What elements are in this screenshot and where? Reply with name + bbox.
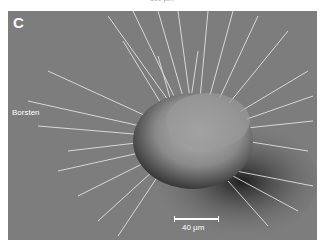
previous-panel-scale-label: 100 µm	[150, 0, 174, 2]
bristles-annotation: Borsten	[12, 108, 40, 117]
panel-label: C	[13, 14, 24, 31]
sem-image-panel: C Borsten 40 µm	[8, 11, 317, 240]
sem-micrograph	[8, 11, 317, 240]
scale-bar	[174, 218, 219, 220]
scale-bar-label: 40 µm	[182, 223, 204, 232]
